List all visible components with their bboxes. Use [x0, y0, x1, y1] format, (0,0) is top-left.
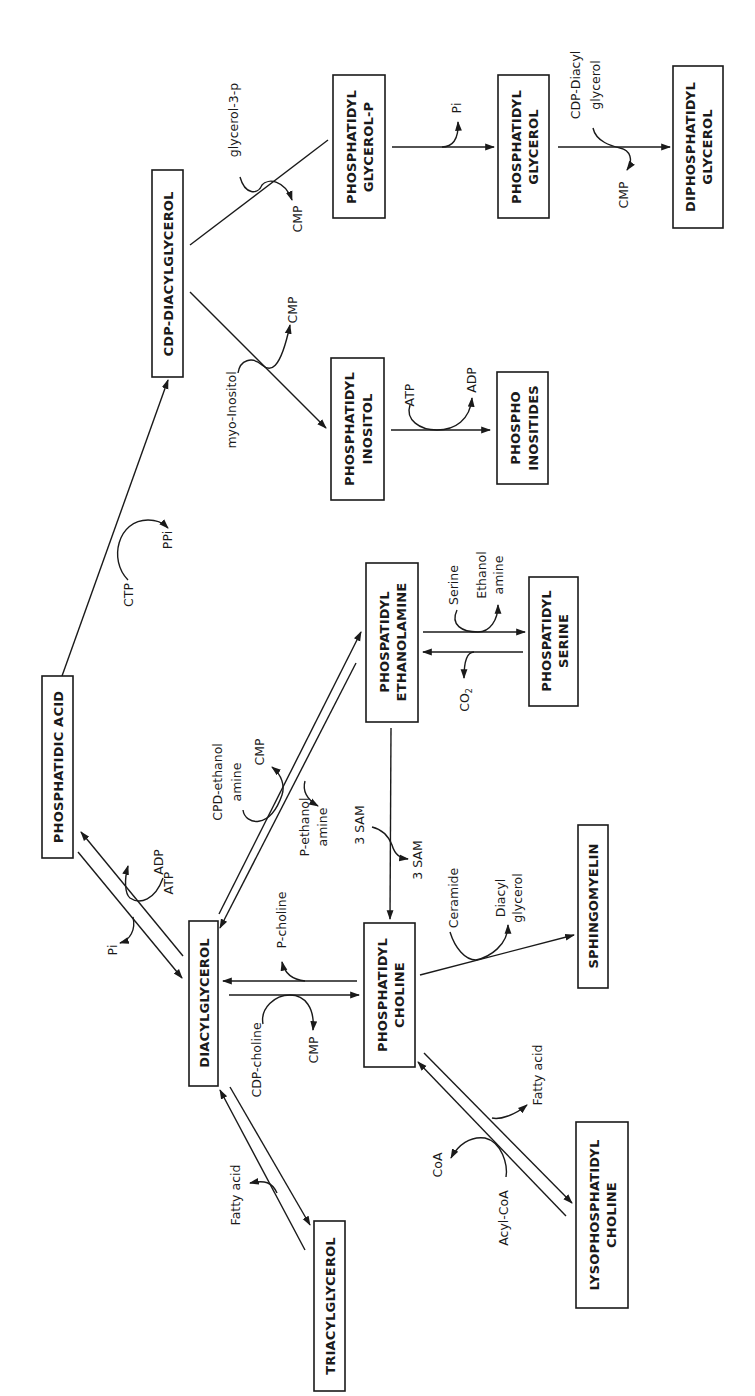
- p-choline-arc: [282, 962, 305, 981]
- label-serine: Serine: [446, 565, 461, 605]
- label-atp: ATP: [402, 383, 417, 406]
- node-label-line2: GLYCEROL-P: [361, 102, 376, 193]
- label-ceramide: Ceramide: [446, 867, 461, 928]
- label-diacyl: Diacyl: [493, 879, 508, 918]
- node-label-line1: PHOSPHATIDYL: [375, 938, 390, 1052]
- edge-pa-to-cdpdag: [62, 380, 168, 676]
- node-label-line2: GLYCEROL: [526, 109, 541, 184]
- node-label: DIACYLGLYCEROL: [197, 938, 212, 1067]
- label-cmp-dpg: CMP: [616, 181, 631, 209]
- node-diacylglycerol: DIACYLGLYCEROL: [189, 921, 218, 1086]
- pi-pa-arc: [120, 917, 134, 943]
- edge-cdpdag-to-pgp: [190, 140, 328, 245]
- node-label-line2: ETHANOLAMINE: [394, 583, 409, 702]
- label-cmp-pgp: CMP: [290, 205, 305, 233]
- node-lysophosphatidyl-choline: LYSOPHOSPHATIDYL CHOLINE: [576, 1122, 628, 1308]
- node-phosphatidyl-choline: PHOSPHATIDYL CHOLINE: [364, 923, 415, 1067]
- edge-pc-to-lpc: [424, 1053, 572, 1203]
- node-label: TRIACYLGLYCEROL: [323, 1237, 338, 1375]
- glycerol3p-cmp-arc: [240, 177, 292, 200]
- label-amine-ps: amine: [491, 555, 506, 594]
- lipid-pathway-diagram: PHOSPHATIDIC ACID CDP-DIACYLGLYCEROL PHO…: [0, 0, 755, 1396]
- node-phosphatidic-acid: PHOSPHATIDIC ACID: [42, 676, 73, 858]
- label-coa: CoA: [430, 1152, 445, 1177]
- label-p-choline: P-choline: [274, 891, 289, 948]
- node-phosphatidyl-ethanolamine: PHOSPATIDYL ETHANOLAMINE: [366, 563, 418, 722]
- edge-pe-to-pc: [390, 728, 391, 919]
- label-cmp-pc: CMP: [306, 1036, 321, 1064]
- node-diphosphatidyl-glycerol: DIPHOSPHATIDYL GLYCEROL: [673, 66, 723, 228]
- node-sphingomyelin: SPHINGOMYELIN: [578, 825, 608, 988]
- node-label-line1: LYSOPHOSPHATIDYL: [587, 1140, 602, 1291]
- edge-cdpdag-to-pi: [190, 292, 326, 428]
- edge-pc-to-sphingomyelin: [420, 935, 574, 975]
- cpd-ethanolamine-cmp-arc: [243, 767, 283, 821]
- label-fatty-acid-lpc: Fatty acid: [530, 1045, 545, 1106]
- label-cmp-pe: CMP: [252, 738, 267, 766]
- node-label-line2: INOSITOL: [360, 394, 375, 465]
- node-label-line1: PHOSPATIDYL: [539, 590, 554, 692]
- node-label-line2: GLYCEROL: [700, 109, 715, 184]
- acyl-coa-coa-arc: [451, 1138, 506, 1177]
- serine-ethanolamine-arc: [455, 605, 498, 632]
- label-cpd-ethanol: CPD-ethanol: [210, 743, 225, 821]
- node-phosphatidyl-inositol: PHOSPHATIDYL INOSITOL: [331, 358, 384, 500]
- atp-adp-arc: [409, 398, 472, 430]
- node-label: SPHINGOMYELIN: [586, 843, 601, 968]
- node-label-line2: SERINE: [556, 614, 571, 668]
- label-ctp: CTP: [121, 583, 136, 607]
- co2-release-arc: [464, 652, 474, 678]
- node-label-line1: PHOSPHO: [508, 391, 523, 465]
- node-phosphoinositides: PHOSPHO INOSITIDES: [497, 372, 548, 484]
- label-pi-pg: Pi: [449, 103, 464, 114]
- node-label-line1: PHOSPATIDYL: [377, 591, 392, 693]
- node-label: PHOSPHATIDIC ACID: [51, 691, 66, 843]
- fatty-acid-lpc-arc: [492, 1105, 527, 1118]
- node-label-line1: DIPHOSPHATIDYL: [683, 82, 698, 212]
- label-glycerol-sm: glycerol: [510, 873, 525, 922]
- cdpdag-cmp-arc: [593, 128, 631, 170]
- label-acyl-coa: Acyl-CoA: [496, 1190, 511, 1246]
- node-label-line2: INOSITIDES: [526, 385, 541, 471]
- node-label: CDP-DIACYLGLYCEROL: [161, 191, 176, 356]
- label-p-amine: amine: [315, 807, 330, 846]
- label-fatty-acid-tag: Fatty acid: [228, 1165, 243, 1226]
- fatty-acid-tag-arc: [250, 1182, 277, 1193]
- label-co2: CO2: [457, 688, 474, 712]
- cdp-choline-cmp-arc: [263, 995, 314, 1030]
- node-phosphatidyl-glycerol-p: PHOSPHATIDYL GLYCEROL-P: [333, 75, 385, 218]
- node-label-line1: PHOSPHATIDYL: [344, 90, 359, 204]
- node-cdp-diacylglycerol: CDP-DIACYLGLYCEROL: [152, 170, 183, 377]
- label-sam-out: 3 SAM: [410, 840, 425, 879]
- label-ppi: PPi: [160, 531, 175, 549]
- edge-pa-to-dag: [78, 852, 182, 978]
- label-myo-inositol: myo-Inositol: [224, 371, 239, 448]
- label-glycerol-dpg: glycerol: [588, 60, 603, 109]
- label-atp-pa: ATP: [161, 871, 176, 894]
- label-adp-pa: ADP: [151, 849, 166, 875]
- label-cmp-pi: CMP: [285, 296, 300, 324]
- label-cpd-amine: amine: [229, 762, 244, 801]
- label-cdp-diacyl: CDP-Diacyl: [568, 51, 583, 120]
- label-pi-pa: Pi: [105, 945, 120, 956]
- node-phosphatidyl-serine: PHOSPATIDYL SERINE: [529, 577, 578, 706]
- node-phosphatidyl-glycerol: PHOSPHATIDYL GLYCEROL: [498, 75, 549, 218]
- node-label-line1: PHOSPHATIDYL: [509, 90, 524, 204]
- inositol-cmp-arc: [238, 325, 290, 373]
- label-ethanol: Ethanol: [474, 551, 489, 598]
- label-cdp-choline: CDP-choline: [249, 1022, 264, 1097]
- pi-release-arc: [442, 122, 458, 147]
- node-label-line2: CHOLINE: [604, 1182, 619, 1248]
- node-label-line2: CHOLINE: [392, 962, 407, 1028]
- label-adp: ADP: [464, 367, 479, 393]
- label-p-ethanol: P-ethanol: [297, 798, 312, 857]
- node-triacylglycerol: TRIACYLGLYCEROL: [314, 1221, 345, 1391]
- label-glycerol-3-p: glycerol-3-p: [226, 83, 241, 157]
- node-label-line1: PHOSPHATIDYL: [342, 372, 357, 486]
- label-sam-in: 3 SAM: [352, 805, 367, 844]
